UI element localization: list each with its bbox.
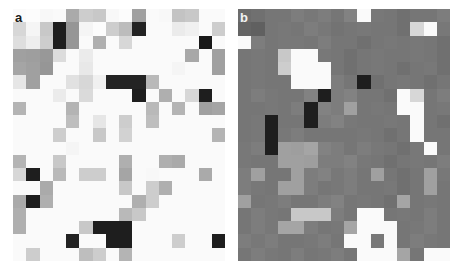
heatmap-cell [159,195,172,208]
heatmap-cell [357,49,370,62]
heatmap-cell [212,49,225,62]
heatmap-cell [251,208,264,221]
heatmap-cell [304,115,317,128]
heatmap-cell [278,115,291,128]
heatmap-cell [26,22,39,35]
heatmap-cell [344,128,357,141]
heatmap-cell [344,195,357,208]
heatmap-cell [265,128,278,141]
heatmap-cell [344,9,357,22]
heatmap-cell [79,221,92,234]
heatmap-cell [66,89,79,102]
heatmap-cell [172,115,185,128]
heatmap-cell [53,234,66,247]
heatmap-cell [66,168,79,181]
heatmap-cell [93,36,106,49]
heatmap-cell [251,75,264,88]
heatmap-cell [26,128,39,141]
heatmap-cell [397,221,410,234]
heatmap-cell [146,221,159,234]
heatmap-cell [212,102,225,115]
heatmap-cell [199,22,212,35]
heatmap-cell [79,89,92,102]
heatmap-cell [106,221,119,234]
heatmap-cell [238,36,251,49]
heatmap-cell [119,75,132,88]
heatmap-cell [146,22,159,35]
heatmap-cell [199,102,212,115]
heatmap-cell [384,181,397,194]
heatmap-cell [132,142,145,155]
heatmap-cell [304,36,317,49]
heatmap-cell [318,62,331,75]
heatmap-cell [172,36,185,49]
heatmap-cell [251,234,264,247]
heatmap-cell [199,128,212,141]
heatmap-cell [397,102,410,115]
heatmap-cell [371,36,384,49]
heatmap-cell [251,89,264,102]
heatmap-cell [437,36,450,49]
heatmap-cell [251,248,264,261]
heatmap-cell [265,234,278,247]
heatmap-cell [199,234,212,247]
heatmap-cell [371,128,384,141]
heatmap-cell [278,142,291,155]
heatmap-cell [304,234,317,247]
heatmap-cell [79,75,92,88]
heatmap-cell [13,128,26,141]
heatmap-cell [132,75,145,88]
heatmap-cell [357,168,370,181]
heatmap-cell [291,9,304,22]
heatmap-cell [265,22,278,35]
heatmap-cell [397,115,410,128]
heatmap-cell [410,62,423,75]
heatmap-cell [265,62,278,75]
heatmap-cell [278,22,291,35]
heatmap-cell [199,75,212,88]
heatmap-cell [291,168,304,181]
heatmap-cell [238,62,251,75]
heatmap-cell [397,75,410,88]
heatmap-cell [26,155,39,168]
heatmap-cell [344,89,357,102]
heatmap-cell [424,22,437,35]
heatmap-cell [93,102,106,115]
heatmap-cell [304,89,317,102]
heatmap-cell [185,221,198,234]
heatmap-cell [357,221,370,234]
heatmap-cell [397,9,410,22]
heatmap-cell [278,128,291,141]
heatmap-cell [185,208,198,221]
heatmap-cell [40,36,53,49]
heatmap-cell [13,102,26,115]
heatmap-cell [304,62,317,75]
heatmap-cell [304,22,317,35]
heatmap-cell [291,221,304,234]
heatmap-cell [159,142,172,155]
heatmap-cell [93,49,106,62]
heatmap-cell [278,49,291,62]
heatmap-cell [199,208,212,221]
heatmap-cell [371,168,384,181]
heatmap-cell [106,155,119,168]
heatmap-cell [318,115,331,128]
heatmap-cell [79,181,92,194]
heatmap-cell [331,22,344,35]
heatmap-cell [384,221,397,234]
heatmap-cell [185,115,198,128]
heatmap-cell [371,75,384,88]
heatmap-cell [304,208,317,221]
heatmap-cell [331,102,344,115]
heatmap-cell [13,208,26,221]
heatmap-cell [79,9,92,22]
heatmap-cell [106,208,119,221]
heatmap-cell [437,89,450,102]
heatmap-cell [199,62,212,75]
heatmap-cell [132,89,145,102]
heatmap-cell [53,22,66,35]
heatmap-cell [93,195,106,208]
heatmap-cell [410,221,423,234]
heatmap-cell [26,181,39,194]
heatmap-cell [185,89,198,102]
